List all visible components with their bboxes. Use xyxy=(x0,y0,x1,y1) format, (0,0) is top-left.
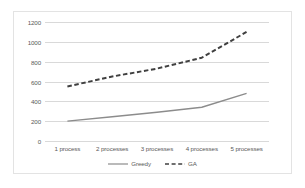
gridline xyxy=(45,141,269,142)
x-axis-tick-label: 2 processes xyxy=(90,145,135,157)
legend-label-greedy: Greedy xyxy=(131,160,151,167)
legend-label-ga: GA xyxy=(188,160,197,167)
x-axis-tick-label: 4 processes xyxy=(179,145,224,157)
legend-swatch-ga xyxy=(165,162,185,166)
y-axis-tick-label: 800 xyxy=(31,58,41,65)
series-line-greedy xyxy=(67,93,246,121)
x-axis-tick-label: 1 process xyxy=(45,145,90,157)
y-axis-tick-label: 400 xyxy=(31,98,41,105)
series-lines xyxy=(45,22,269,141)
x-axis-tick-label: 3 processes xyxy=(135,145,180,157)
legend-item-ga[interactable]: GA xyxy=(165,160,197,167)
legend-swatch-greedy xyxy=(108,162,128,166)
chart-legend: Greedy GA xyxy=(14,160,291,167)
legend-item-greedy[interactable]: Greedy xyxy=(108,160,151,167)
chart-container: 020040060080010001200 1 process2 process… xyxy=(13,11,292,174)
y-axis-tick-label: 0 xyxy=(38,138,41,145)
x-axis-tick-label: 5 processes xyxy=(224,145,269,157)
y-axis-tick-label: 1200 xyxy=(28,19,41,26)
y-axis-tick-label: 200 xyxy=(31,118,41,125)
plot-area: 020040060080010001200 xyxy=(45,22,269,141)
x-axis-labels: 1 process2 processes3 processes4 process… xyxy=(45,145,269,157)
y-axis-tick-label: 600 xyxy=(31,78,41,85)
series-line-ga xyxy=(67,32,246,87)
y-axis-tick-label: 1000 xyxy=(28,38,41,45)
